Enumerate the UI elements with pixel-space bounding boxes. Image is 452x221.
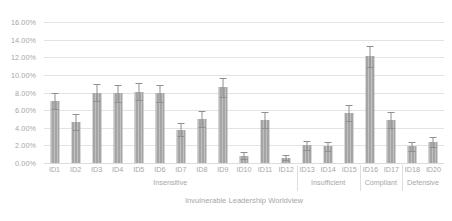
error-bar-cap-lower (72, 130, 79, 131)
error-bar-cap-upper (93, 84, 100, 85)
error-bar-cap-upper (135, 83, 142, 84)
bar-slot (339, 22, 360, 163)
x-axis-tick-label: ID3 (91, 165, 102, 174)
error-bar-line (222, 78, 223, 97)
error-bar-line (75, 114, 76, 130)
error-bar-line (54, 93, 55, 109)
error-bar-cap-lower (283, 160, 290, 161)
error-bar-cap-upper (283, 155, 290, 156)
error-bar-cap-upper (325, 142, 332, 143)
y-axis-tick-label: 12.00% (11, 53, 36, 62)
error-bar-cap-lower (304, 150, 311, 151)
error-bar-line (117, 85, 118, 103)
bar-slot (212, 22, 233, 163)
x-axis-tick-label: ID16 (363, 165, 378, 174)
group-label: Insensitive (153, 178, 187, 187)
error-bar-cap-lower (135, 100, 142, 101)
error-bar-cap-upper (114, 85, 121, 86)
group-band: InsensitiveInsufficientCompliantDefensiv… (44, 178, 444, 190)
error-bar-cap-lower (93, 101, 100, 102)
y-axis-tick-label: 10.00% (11, 70, 36, 79)
bar-slot (86, 22, 107, 163)
error-bar-line (265, 112, 266, 128)
error-bar-cap-lower (198, 127, 205, 128)
x-axis-tick-label: ID14 (321, 165, 336, 174)
bar-slot (170, 22, 191, 163)
x-axis-tick-label: ID15 (342, 165, 357, 174)
bar-slot (318, 22, 339, 163)
error-bar-line (412, 142, 413, 151)
error-bar-cap-upper (367, 46, 374, 47)
group-separator (402, 165, 403, 191)
bar-slot (107, 22, 128, 163)
x-axis-tick-label: ID4 (112, 165, 123, 174)
x-axis-tick-label: ID8 (196, 165, 207, 174)
bar (218, 87, 227, 163)
bar (134, 92, 143, 163)
error-bar-cap-lower (262, 128, 269, 129)
bar-slot (233, 22, 254, 163)
x-axis-tick-label: ID18 (405, 165, 420, 174)
error-bar-cap-upper (156, 85, 163, 86)
x-axis-tick-label: ID5 (133, 165, 144, 174)
x-axis-tick-label: ID13 (300, 165, 315, 174)
error-bar-cap-lower (51, 109, 58, 110)
error-bar-cap-lower (388, 128, 395, 129)
bar (113, 93, 122, 163)
bar-slot (191, 22, 212, 163)
group-separator (297, 165, 298, 191)
error-bar-cap-upper (240, 152, 247, 153)
group-label: Insufficient (311, 178, 345, 187)
x-axis-tick-label: ID9 (217, 165, 228, 174)
y-axis-tick-label: 16.00% (11, 18, 36, 27)
error-bar-cap-upper (177, 123, 184, 124)
error-bar-cap-upper (198, 111, 205, 112)
error-bar-line (96, 84, 97, 102)
bar-series (44, 22, 444, 163)
y-axis-tick-label: 4.00% (15, 123, 36, 132)
error-bar-line (328, 142, 329, 151)
error-bar-line (433, 137, 434, 148)
x-axis-tick-label: ID11 (258, 165, 273, 174)
bar (366, 56, 375, 163)
bar-slot (423, 22, 444, 163)
bar-slot (360, 22, 381, 163)
bar-slot (402, 22, 423, 163)
error-bar-line (391, 112, 392, 128)
y-axis-labels: 0.00%2.00%4.00%6.00%8.00%10.00%12.00%14.… (0, 22, 40, 163)
x-axis-tick-label: ID20 (426, 165, 441, 174)
y-axis-tick-label: 6.00% (15, 106, 36, 115)
error-bar-cap-upper (346, 105, 353, 106)
error-bar-cap-lower (430, 147, 437, 148)
error-bar-cap-lower (346, 121, 353, 122)
error-bar-cap-lower (409, 151, 416, 152)
error-bar-cap-lower (240, 159, 247, 160)
error-bar-line (180, 123, 181, 135)
error-bar-cap-lower (367, 67, 374, 68)
bar-slot (276, 22, 297, 163)
bar-slot (44, 22, 65, 163)
bar-slot (255, 22, 276, 163)
bar-slot (128, 22, 149, 163)
y-axis-tick-label: 8.00% (15, 88, 36, 97)
bar-chart: 0.00%2.00%4.00%6.00%8.00%10.00%12.00%14.… (0, 0, 452, 221)
y-axis-tick-label: 14.00% (11, 35, 36, 44)
error-bar-line (370, 46, 371, 67)
error-bar-line (243, 152, 244, 159)
bar-slot (297, 22, 318, 163)
x-axis-tick-label: ID10 (236, 165, 251, 174)
error-bar-line (201, 111, 202, 127)
error-bar-cap-lower (114, 102, 121, 103)
y-axis-tick-label: 0.00% (15, 159, 36, 168)
error-bar-line (159, 85, 160, 103)
error-bar-cap-upper (72, 114, 79, 115)
x-axis-tick-label: ID1 (49, 165, 60, 174)
bar-slot (65, 22, 86, 163)
error-bar-cap-lower (219, 97, 226, 98)
error-bar-cap-lower (177, 136, 184, 137)
error-bar-cap-upper (219, 78, 226, 79)
group-label: Defensive (407, 178, 439, 187)
group-separator (360, 165, 361, 191)
x-axis-tick-label: ID7 (175, 165, 186, 174)
error-bar-cap-upper (304, 141, 311, 142)
